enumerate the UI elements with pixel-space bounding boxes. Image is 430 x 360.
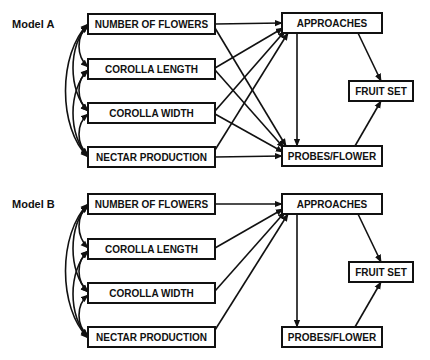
- box-fruit-b: FRUIT SET: [349, 262, 413, 282]
- model-b: Model B NUMBER OF FLOWERS COROLLA LENGTH: [12, 194, 413, 347]
- svg-text:COROLLA WIDTH: COROLLA WIDTH: [109, 108, 194, 119]
- box-flowers-a: NUMBER OF FLOWERS: [88, 14, 215, 34]
- box-length-a: COROLLA LENGTH: [88, 59, 215, 79]
- box-probes-a: PROBES/FLOWER: [282, 146, 382, 166]
- box-flowers-b: NUMBER OF FLOWERS: [88, 194, 215, 214]
- model-a: Model A NUMBER OF FLOWERS: [12, 13, 413, 167]
- box-fruit-a: FRUIT SET: [349, 81, 413, 101]
- box-nectar-a: NECTAR PRODUCTION: [88, 147, 215, 167]
- svg-text:NUMBER OF FLOWERS: NUMBER OF FLOWERS: [95, 19, 209, 30]
- svg-text:NECTAR PRODUCTION: NECTAR PRODUCTION: [96, 332, 207, 343]
- svg-text:FRUIT SET: FRUIT SET: [355, 267, 407, 278]
- model-b-label: Model B: [12, 198, 55, 210]
- box-width-b: COROLLA WIDTH: [88, 283, 215, 303]
- model-a-label: Model A: [12, 18, 54, 30]
- svg-text:NECTAR PRODUCTION: NECTAR PRODUCTION: [96, 152, 207, 163]
- correlation-arcs: [66, 204, 89, 338]
- box-approaches-b: APPROACHES: [282, 194, 382, 214]
- correlation-arcs: [66, 24, 89, 157]
- svg-text:APPROACHES: APPROACHES: [297, 199, 368, 210]
- svg-text:NUMBER OF FLOWERS: NUMBER OF FLOWERS: [95, 199, 209, 210]
- svg-text:PROBES/FLOWER: PROBES/FLOWER: [288, 151, 377, 162]
- svg-text:COROLLA LENGTH: COROLLA LENGTH: [105, 64, 198, 75]
- path-diagram: Model A NUMBER OF FLOWERS: [0, 0, 430, 360]
- box-probes-b: PROBES/FLOWER: [282, 327, 382, 347]
- box-width-a: COROLLA WIDTH: [88, 103, 215, 123]
- svg-text:FRUIT SET: FRUIT SET: [355, 86, 407, 97]
- svg-text:PROBES/FLOWER: PROBES/FLOWER: [288, 332, 377, 343]
- box-length-b: COROLLA LENGTH: [88, 239, 215, 259]
- svg-text:COROLLA WIDTH: COROLLA WIDTH: [109, 288, 194, 299]
- box-nectar-b: NECTAR PRODUCTION: [88, 327, 215, 347]
- box-approaches-a: APPROACHES: [282, 13, 382, 33]
- svg-text:APPROACHES: APPROACHES: [297, 18, 368, 29]
- svg-text:COROLLA LENGTH: COROLLA LENGTH: [105, 244, 198, 255]
